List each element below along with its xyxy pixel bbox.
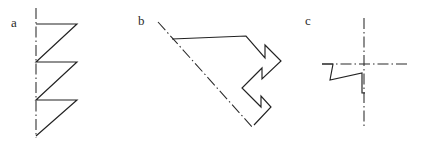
figure-c-drawing — [0, 0, 429, 147]
figure-c-zigzag-outline — [322, 64, 365, 93]
figure-sheet: a b c — [0, 0, 429, 147]
